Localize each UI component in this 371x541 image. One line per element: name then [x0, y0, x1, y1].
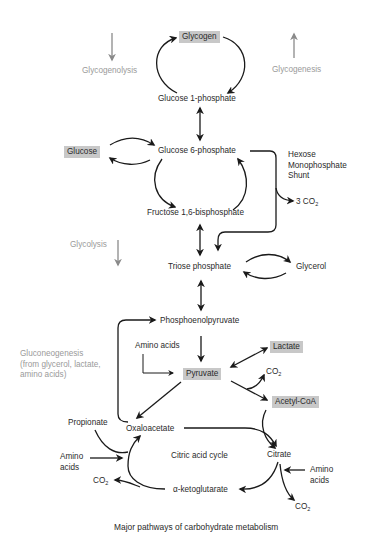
co2-text: CO — [266, 367, 278, 376]
node-glucose-6-phosphate: Glucose 6-phosphate — [158, 146, 236, 156]
glycolysis-label: Glycolysis — [70, 240, 107, 250]
hmp-shunt-label: Hexose Monophosphate Shunt — [288, 150, 347, 182]
node-acetyl-coa: Acetyl-CoA — [272, 396, 319, 408]
node-phosphoenolpyruvate: Phosphoenolpyruvate — [160, 316, 239, 326]
node-glucose-1-phosphate: Glucose 1-phosphate — [158, 94, 236, 104]
subscript: 2 — [315, 201, 318, 207]
gluconeogenesis-label: Gluconeogenesis (from glycerol, lactate,… — [20, 349, 101, 381]
subscript: 2 — [278, 371, 281, 377]
node-amino-acids-2: Amino acids — [60, 452, 83, 473]
node-lactate: Lactate — [270, 341, 303, 353]
node-co2-pyruvate: CO2 — [266, 367, 281, 379]
node-citrate: Citrate — [267, 450, 291, 460]
citric-acid-cycle-label: Citric acid cycle — [171, 451, 228, 461]
node-glucose: Glucose — [64, 146, 100, 158]
node-3co2: 3 CO2 — [296, 197, 318, 209]
node-glycerol: Glycerol — [296, 262, 326, 272]
node-propionate: Propionate — [68, 418, 108, 428]
node-co2-citrate: CO2 — [295, 502, 310, 514]
node-oxaloacetate: Oxaloacetate — [126, 424, 174, 434]
node-pyruvate: Pyruvate — [183, 368, 221, 380]
node-fructose-16-bisphosphate: Fructose 1,6-bisphosphate — [147, 208, 244, 218]
node-triose-phosphate: Triose phosphate — [168, 262, 231, 272]
glycogenolysis-label: Glycogenolysis — [82, 66, 137, 76]
subscript: 2 — [105, 480, 108, 486]
glycogenesis-label: Glycogenesis — [272, 65, 321, 75]
co2-text: 3 CO — [296, 197, 315, 206]
node-glycogen: Glycogen — [179, 31, 220, 43]
node-alpha-ketoglutarate: α-ketoglutarate — [173, 485, 228, 495]
node-co2-left: CO2 — [93, 476, 108, 488]
co2-text: CO — [295, 502, 307, 511]
co2-text: CO — [93, 476, 105, 485]
node-amino-acids-3: Amino acids — [310, 465, 333, 486]
subscript: 2 — [307, 506, 310, 512]
node-amino-acids-1: Amino acids — [135, 341, 180, 351]
carbohydrate-metabolism-diagram: Glycogenolysis Glycogenesis Glycolysis G… — [0, 0, 371, 541]
diagram-caption: Major pathways of carbohydrate metabolis… — [114, 522, 278, 532]
